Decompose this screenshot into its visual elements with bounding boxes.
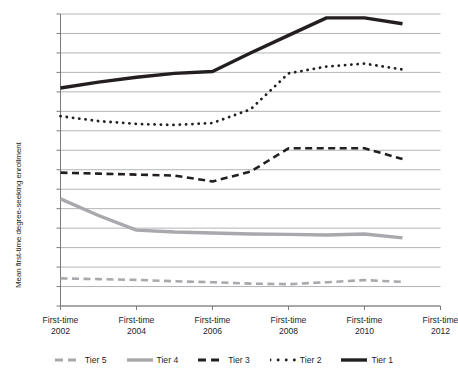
x-tick-label-line1: First-time <box>423 315 458 326</box>
legend-label: Tier 4 <box>157 355 179 365</box>
legend-item-tier-4[interactable]: Tier 4 <box>127 355 179 365</box>
legend-label: Tier 1 <box>371 355 393 365</box>
x-tick-label-line1: First-time <box>119 315 155 326</box>
x-tick-label: First-time2010 <box>347 315 383 336</box>
x-tick-label: First-time2008 <box>271 315 307 336</box>
legend-label: Tier 3 <box>228 355 250 365</box>
x-tick-label: First-time2004 <box>119 315 155 336</box>
x-tick-label-line2: 2006 <box>195 326 231 337</box>
legend-label: Tier 5 <box>85 355 107 365</box>
x-tick-label-line2: 2010 <box>347 326 383 337</box>
x-tick-label-line2: 2002 <box>43 326 79 337</box>
x-tick-label: First-time2006 <box>195 315 231 336</box>
legend-item-tier-1[interactable]: Tier 1 <box>341 355 393 365</box>
legend-label: Tier 2 <box>300 355 322 365</box>
legend-swatch-dashed <box>55 355 81 365</box>
x-tick-label-line1: First-time <box>347 315 383 326</box>
x-tick-label-line1: First-time <box>195 315 231 326</box>
legend-swatch-dashed <box>198 355 224 365</box>
x-tick-label-line2: 2012 <box>423 326 458 337</box>
x-tick-label-line2: 2004 <box>119 326 155 337</box>
chart-legend: Tier 5Tier 4Tier 3Tier 2Tier 1 <box>0 350 448 370</box>
legend-swatch-dotted <box>270 355 296 365</box>
x-tick-label: First-time2002 <box>43 315 79 336</box>
legend-swatch-solid-thick <box>127 355 153 365</box>
legend-swatch-solid-thick <box>341 355 367 365</box>
x-tick-label-line2: 2008 <box>271 326 307 337</box>
legend-item-tier-3[interactable]: Tier 3 <box>198 355 250 365</box>
legend-item-tier-5[interactable]: Tier 5 <box>55 355 107 365</box>
x-tick-label: First-time2012 <box>423 315 458 336</box>
x-tick-label-line1: First-time <box>43 315 79 326</box>
x-tick-label-line1: First-time <box>271 315 307 326</box>
legend-item-tier-2[interactable]: Tier 2 <box>270 355 322 365</box>
